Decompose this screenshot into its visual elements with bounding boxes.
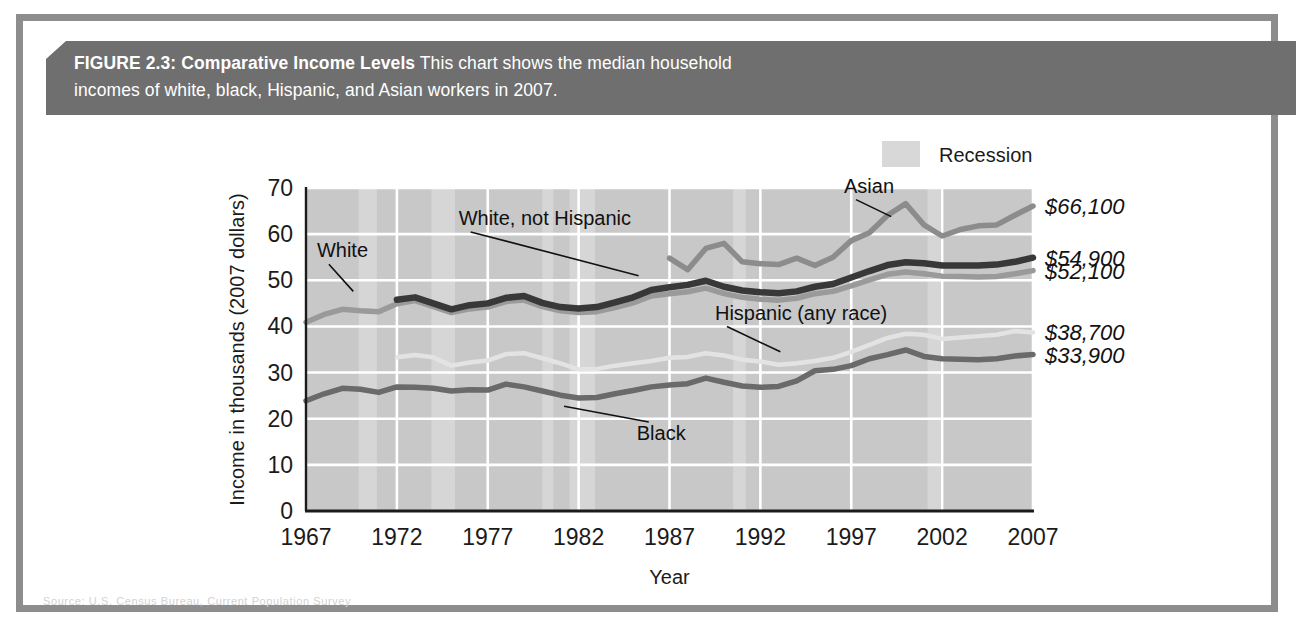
x-tick-label: 1977: [462, 524, 513, 550]
x-tick-label: 1997: [826, 524, 877, 550]
recession-band: [570, 188, 595, 511]
caption-line-2: incomes of white, black, Hispanic, and A…: [74, 77, 1278, 104]
y-tick-label: 0: [280, 498, 293, 524]
end-value-label-asian: $66,100: [1044, 194, 1125, 219]
y-tick-label: 50: [267, 267, 293, 293]
caption-line-1: FIGURE 2.3: Comparative Income Levels Th…: [74, 50, 1278, 77]
series-annotation-black: Black: [637, 422, 687, 444]
y-tick-label: 10: [267, 452, 293, 478]
x-tick-label: 1982: [553, 524, 604, 550]
caption-text-1: This chart shows the median household: [415, 53, 732, 73]
recession-band: [431, 188, 455, 511]
chart-note: Note: Income rounded to nearest $100.: [242, 615, 555, 617]
x-tick-label: 1992: [735, 524, 786, 550]
x-tick-label: 1967: [280, 524, 331, 550]
y-tick-label: 40: [267, 313, 293, 339]
income-line-chart: 0102030405060701967197219771982198719921…: [46, 117, 1296, 617]
x-axis-title: Year: [649, 566, 690, 588]
figure-frame: FIGURE 2.3: Comparative Income Levels Th…: [16, 14, 1278, 612]
series-annotation-asian: Asian: [844, 175, 894, 197]
y-tick-label: 60: [267, 221, 293, 247]
end-labels-group: $66,100$54,900$52,100$38,700$33,900: [1044, 194, 1125, 368]
legend-swatch-recession: [882, 141, 920, 167]
recession-band: [359, 188, 377, 511]
recession-band: [542, 188, 553, 511]
series-annotation-white: White: [317, 239, 368, 261]
chart-area: 0102030405060701967197219771982198719921…: [46, 117, 1296, 617]
x-tick-label: 2002: [917, 524, 968, 550]
y-axis-title: Income in thousands (2007 dollars): [226, 193, 248, 505]
series-annotation-white_not_hispanic: White, not Hispanic: [459, 207, 631, 229]
figure-caption-banner: FIGURE 2.3: Comparative Income Levels Th…: [46, 41, 1296, 115]
recession-band: [733, 188, 746, 511]
series-annotation-hispanic: Hispanic (any race): [715, 302, 887, 324]
end-value-label-white: $52,100: [1044, 259, 1125, 284]
x-tick-label: 1972: [371, 524, 422, 550]
legend-group: Recession: [882, 141, 1032, 167]
note-group: Note: Income rounded to nearest $100.: [242, 615, 555, 617]
y-tick-label: 70: [267, 175, 293, 201]
legend-label-recession: Recession: [939, 144, 1032, 166]
end-value-label-black: $33,900: [1044, 343, 1125, 368]
x-tick-label: 1987: [644, 524, 695, 550]
y-tick-label: 20: [267, 406, 293, 432]
figure-number-label: FIGURE 2.3: Comparative Income Levels: [74, 53, 415, 73]
y-tick-label: 30: [267, 360, 293, 386]
x-tick-label: 2007: [1007, 524, 1058, 550]
source-caption: Source: U.S. Census Bureau, Current Popu…: [43, 595, 351, 607]
